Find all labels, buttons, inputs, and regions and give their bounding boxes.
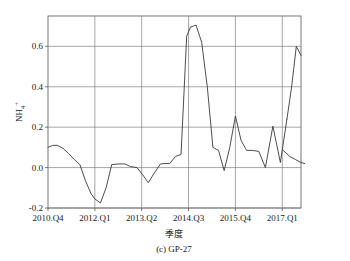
- x-tick-label-1: 2012.Q1: [79, 213, 110, 223]
- x-axis-title: 季度: [165, 228, 183, 239]
- y-axis-title-superscript: +: [13, 102, 20, 106]
- x-tick-label-3: 2014.Q3: [173, 213, 205, 223]
- x-tick-label-5: 2017.Q1: [267, 213, 298, 223]
- x-tick-label-4: 2015.Q4: [220, 213, 252, 223]
- y-tick-label-1: 0.0: [32, 163, 44, 173]
- x-tick-label-2: 2013.Q2: [126, 213, 157, 223]
- figure-caption: (c) GP-27: [156, 244, 192, 254]
- y-tick-label-4: 0.6: [32, 41, 44, 51]
- y-tick-label-3: 0.4: [32, 82, 44, 92]
- y-tick-label-0: -0.2: [29, 203, 43, 213]
- x-tick-label-0: 2010.Q4: [32, 213, 64, 223]
- y-axis-title-main: NH: [14, 108, 24, 121]
- figure-container: -0.20.00.20.40.6 2010.Q42012.Q12013.Q220…: [0, 0, 350, 261]
- chart-canvas: -0.20.00.20.40.6 2010.Q42012.Q12013.Q220…: [0, 0, 350, 261]
- y-tick-label-2: 0.2: [32, 122, 43, 132]
